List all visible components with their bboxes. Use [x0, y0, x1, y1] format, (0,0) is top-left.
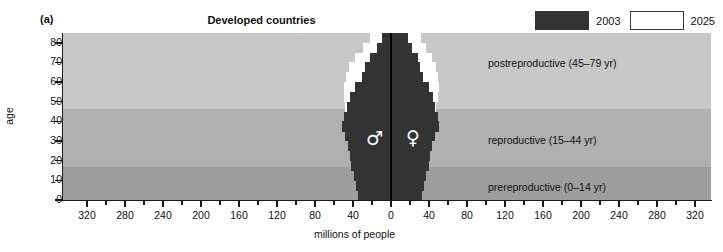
x-tick-minor: [295, 200, 296, 205]
x-tick: [580, 200, 581, 207]
bar-2003-male: [347, 102, 391, 112]
x-tick: [542, 200, 543, 207]
x-tick-minor: [143, 200, 144, 205]
y-axis-line: [62, 33, 63, 201]
female-symbol-icon: ♀: [406, 128, 420, 147]
bar-2003-male: [344, 112, 392, 122]
male-symbol-icon: ♂: [366, 129, 383, 148]
x-tick-minor: [599, 200, 600, 205]
legend-swatch-2003: [535, 11, 589, 30]
x-tick: [276, 200, 277, 207]
x-tick-minor: [181, 200, 182, 205]
plot-area: postreproductive (45–79 yr)reproductive …: [63, 33, 711, 200]
x-tick-label: 80: [309, 209, 321, 221]
x-tick: [314, 200, 315, 207]
x-tick: [200, 200, 201, 207]
x-tick-label: 160: [230, 209, 248, 221]
band-label-reproductive: reproductive (15–44 yr): [63, 134, 711, 146]
bar-2003-female: [391, 72, 423, 82]
y-tick-label: 30: [22, 134, 62, 146]
x-tick: [428, 200, 429, 207]
x-tick: [86, 200, 87, 207]
bar-2003-female: [391, 151, 430, 161]
x-tick-label: 240: [610, 209, 628, 221]
x-tick-minor: [333, 200, 334, 205]
x-tick-minor: [561, 200, 562, 205]
x-tick: [504, 200, 505, 207]
band-label-postreproductive: postreproductive (45–79 yr): [63, 57, 711, 69]
x-axis-line: [62, 200, 712, 201]
x-tick-label: 80: [461, 209, 473, 221]
x-tick-minor: [675, 200, 676, 205]
y-tick-label: 80: [22, 36, 62, 48]
y-tick-label: 0: [22, 193, 62, 205]
bar-2003-male: [362, 72, 391, 82]
x-tick-label: 0: [388, 209, 394, 221]
x-tick-label: 40: [423, 209, 435, 221]
x-tick: [352, 200, 353, 207]
bar-2003-female: [391, 43, 412, 53]
x-tick-label: 40: [347, 209, 359, 221]
y-tick-label: 60: [22, 75, 62, 87]
x-tick-label: 320: [686, 209, 704, 221]
figure-root: (a) Developed countries 2003 2025 postre…: [0, 0, 723, 252]
bar-2003-female: [391, 112, 438, 122]
bar-2003-female: [391, 82, 429, 92]
x-tick-minor: [371, 200, 372, 205]
legend-item-2025[interactable]: 2025: [630, 11, 715, 30]
x-tick-label: 160: [534, 209, 552, 221]
bar-2003-male: [354, 171, 391, 181]
x-tick: [466, 200, 467, 207]
x-tick: [124, 200, 125, 207]
x-tick: [694, 200, 695, 207]
x-tick-minor: [257, 200, 258, 205]
legend-label-2025: 2025: [691, 15, 715, 27]
x-tick-label: 240: [154, 209, 172, 221]
x-tick-minor: [447, 200, 448, 205]
x-tick-label: 280: [116, 209, 134, 221]
x-tick-minor: [523, 200, 524, 205]
x-tick-minor: [105, 200, 106, 205]
x-tick: [390, 200, 391, 207]
x-tick-minor: [637, 200, 638, 205]
bar-2003-female: [391, 161, 429, 171]
x-tick: [656, 200, 657, 207]
bar-2003-female: [391, 102, 435, 112]
y-tick-label: 40: [22, 114, 62, 126]
y-tick-label: 50: [22, 95, 62, 107]
bar-2003-male: [355, 82, 391, 92]
bar-2003-female: [391, 92, 433, 102]
x-tick-label: 120: [496, 209, 514, 221]
legend: 2003 2025: [535, 11, 715, 30]
y-axis-title: age: [3, 107, 15, 125]
x-tick: [162, 200, 163, 207]
bar-2003-male: [350, 151, 391, 161]
x-tick-label: 200: [192, 209, 210, 221]
legend-swatch-2025: [630, 11, 684, 30]
legend-item-2003[interactable]: 2003: [535, 11, 620, 30]
x-tick-minor: [485, 200, 486, 205]
x-tick-label: 120: [268, 209, 286, 221]
bar-2003-female: [391, 33, 408, 43]
x-tick-label: 320: [78, 209, 96, 221]
x-tick-minor: [219, 200, 220, 205]
x-tick-label: 200: [572, 209, 590, 221]
x-tick: [618, 200, 619, 207]
x-tick: [238, 200, 239, 207]
y-tick-label: 20: [22, 154, 62, 166]
band-label-prereproductive: prereproductive (0–14 yr): [63, 181, 711, 193]
bar-2003-male: [350, 92, 391, 102]
x-axis-title: millions of people: [0, 228, 723, 240]
bar-2003-male: [351, 161, 391, 171]
y-tick-label: 70: [22, 55, 62, 67]
y-axis-ticks: 80706050403020100: [0, 0, 62, 252]
y-tick-label: 10: [22, 173, 62, 185]
bar-2003-female: [391, 171, 426, 181]
x-tick-label: 280: [648, 209, 666, 221]
x-tick-minor: [409, 200, 410, 205]
legend-label-2003: 2003: [596, 15, 620, 27]
bar-2003-male: [377, 43, 391, 53]
